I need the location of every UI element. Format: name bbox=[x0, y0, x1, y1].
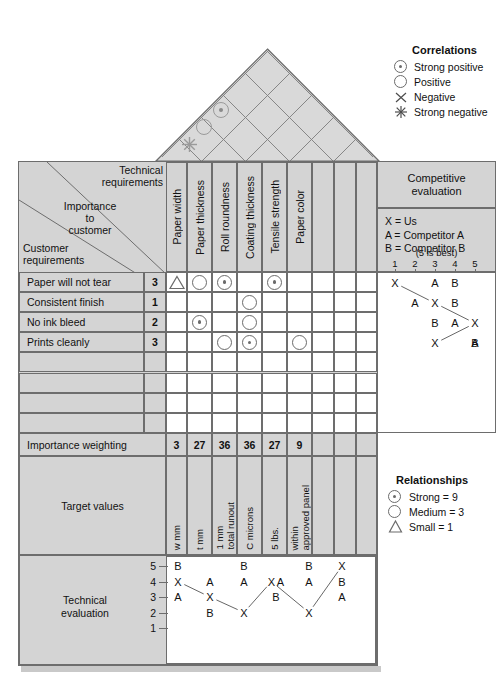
relationship-cell bbox=[287, 352, 312, 372]
relationship-cell bbox=[287, 272, 312, 292]
relationship-cell bbox=[334, 373, 356, 393]
relationship-cell bbox=[262, 272, 287, 292]
competitive-scale-tick-label: 4 bbox=[448, 258, 462, 269]
header-corner-block: Technical requirements Importance to cus… bbox=[19, 162, 166, 272]
importance-weighting-cell bbox=[312, 433, 334, 456]
technical-requirement-label: Paper thickness bbox=[194, 180, 206, 255]
relationship-cell bbox=[312, 312, 334, 332]
relationship-cell bbox=[262, 373, 287, 393]
roof-correlation-triangle bbox=[155, 47, 380, 163]
competitive-scale-tick-label: 2 bbox=[408, 258, 422, 269]
relationship-cell bbox=[334, 413, 356, 433]
relationships-legend-item-medium: Medium = 3 bbox=[388, 504, 500, 519]
importance-weighting-cell: 36 bbox=[212, 433, 237, 456]
relationship-cell bbox=[166, 373, 187, 393]
roof-symbol-strong-negative bbox=[181, 136, 198, 153]
correlations-legend-title: Correlations bbox=[412, 44, 503, 56]
technical-requirement-header-empty bbox=[312, 162, 334, 272]
key-line-x: X = Us bbox=[385, 215, 493, 229]
importance-weighting-label-cell: Importance weighting bbox=[19, 433, 166, 456]
relationship-cell bbox=[212, 272, 237, 292]
technical-evaluation-series: XABXABXABXABXABXAB bbox=[166, 556, 376, 664]
house-of-quality-diagram: Correlations Strong positive Positive Ne… bbox=[0, 0, 503, 676]
competitive-x-trendline bbox=[377, 272, 496, 433]
target-value-cell bbox=[312, 456, 334, 555]
importance-weighting-value: 36 bbox=[244, 439, 256, 451]
importance-weighting-row: Importance weighting3273636279 bbox=[19, 433, 356, 456]
technical-requirement-header: Tensile strength bbox=[262, 162, 287, 272]
customer-importance-value: 3 bbox=[152, 336, 158, 348]
medium-icon bbox=[242, 315, 257, 330]
target-value-cell: C microns bbox=[237, 456, 262, 555]
relationship-cell bbox=[212, 393, 237, 413]
technical-requirement-label: Roll roundness bbox=[219, 182, 231, 252]
relationship-cell bbox=[237, 292, 262, 312]
customer-requirement-row: Prints cleanly bbox=[19, 332, 144, 352]
importance-weighting-value: 3 bbox=[174, 439, 180, 451]
relationships-legend-label: Strong = 9 bbox=[409, 491, 458, 503]
correlations-legend-item-positive: Positive bbox=[394, 74, 503, 89]
customer-requirement-row: Consistent finish bbox=[19, 292, 144, 312]
customer-requirement-row bbox=[19, 393, 144, 413]
importance-weighting-cell: 27 bbox=[262, 433, 287, 456]
target-value-text: t mm bbox=[194, 529, 205, 550]
relationship-cell bbox=[287, 393, 312, 413]
medium-icon bbox=[192, 275, 207, 290]
technical-evaluation-tick-label: 4 bbox=[140, 575, 156, 589]
relationship-cell bbox=[187, 413, 212, 433]
correlations-legend-label: Negative bbox=[414, 91, 455, 103]
relationship-cell bbox=[212, 312, 237, 332]
relationship-cell bbox=[166, 272, 187, 292]
relationship-cell bbox=[212, 373, 237, 393]
customer-requirement-label: No ink bleed bbox=[27, 316, 85, 328]
correlations-legend-label: Strong positive bbox=[414, 61, 483, 73]
customer-requirement-label: Prints cleanly bbox=[27, 336, 89, 348]
relationship-cell bbox=[237, 393, 262, 413]
medium-icon bbox=[242, 295, 257, 310]
target-value-text: 1 mm total runout bbox=[214, 502, 236, 550]
roof-symbol-strong-positive bbox=[213, 102, 229, 118]
target-values-row: Target valuesw mmt mm1 mm total runoutC … bbox=[19, 456, 356, 555]
relationship-cell bbox=[212, 332, 237, 352]
importance-weighting-label: Importance weighting bbox=[27, 439, 127, 451]
relationship-cell bbox=[212, 413, 237, 433]
relationship-cell bbox=[187, 312, 212, 332]
target-value-cell: within approved panel bbox=[287, 456, 312, 555]
relationship-cell bbox=[237, 332, 262, 352]
technical-requirement-header: Coating thickness bbox=[237, 162, 262, 272]
relationship-cell bbox=[212, 352, 237, 372]
relationship-cell bbox=[187, 373, 212, 393]
relationship-cell bbox=[334, 393, 356, 413]
relationship-cell bbox=[312, 352, 334, 372]
small-icon bbox=[169, 275, 185, 290]
technical-evaluation-tick-label: 5 bbox=[140, 559, 156, 573]
small-icon bbox=[388, 519, 403, 534]
relationship-cell bbox=[187, 292, 212, 312]
importance-weighting-value: 9 bbox=[297, 439, 303, 451]
relationships-legend: Relationships Strong = 9 Medium = 3 Smal… bbox=[388, 474, 500, 534]
relationships-legend-item-strong: Strong = 9 bbox=[388, 489, 500, 504]
roof-symbol-positive bbox=[196, 119, 212, 135]
strong-icon bbox=[267, 275, 282, 290]
customer-requirement-label: Consistent finish bbox=[27, 296, 104, 308]
technical-requirement-label: Paper width bbox=[171, 189, 183, 244]
competitive-evaluation-series: XABXABXABXAB bbox=[377, 272, 496, 433]
relationship-cell bbox=[262, 292, 287, 312]
technical-requirement-label: Paper color bbox=[294, 190, 306, 244]
competitive-scale-tick-label: 5 bbox=[468, 258, 482, 269]
correlations-legend-label: Positive bbox=[414, 76, 451, 88]
relationship-cell bbox=[312, 373, 334, 393]
relationship-cell bbox=[237, 352, 262, 372]
customer-importance-cell bbox=[144, 413, 166, 433]
relationship-cell bbox=[262, 413, 287, 433]
relationship-cell bbox=[187, 332, 212, 352]
target-value-cell: t mm bbox=[187, 456, 212, 555]
positive-icon bbox=[394, 75, 408, 89]
importance-weighting-value: 27 bbox=[269, 439, 281, 451]
relationship-cell bbox=[166, 312, 187, 332]
technical-evaluation-tick-label: 2 bbox=[140, 606, 156, 620]
relationship-cell bbox=[334, 292, 356, 312]
customer-importance-cell: 3 bbox=[144, 272, 166, 292]
relationship-cell bbox=[287, 332, 312, 352]
customer-importance-value: 3 bbox=[152, 276, 158, 288]
